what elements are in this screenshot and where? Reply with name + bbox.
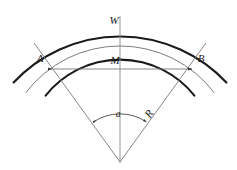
arc-segment-figure: W A M B a R [0, 0, 237, 170]
label-radius-R: R [141, 107, 155, 121]
label-width-W: W [109, 14, 119, 26]
diagram-canvas: W A M B a R [0, 0, 237, 170]
label-point-B: B [198, 52, 205, 64]
label-angle-a: a [116, 109, 121, 119]
label-midpoint-M: M [109, 54, 120, 66]
label-point-A: A [36, 52, 44, 64]
